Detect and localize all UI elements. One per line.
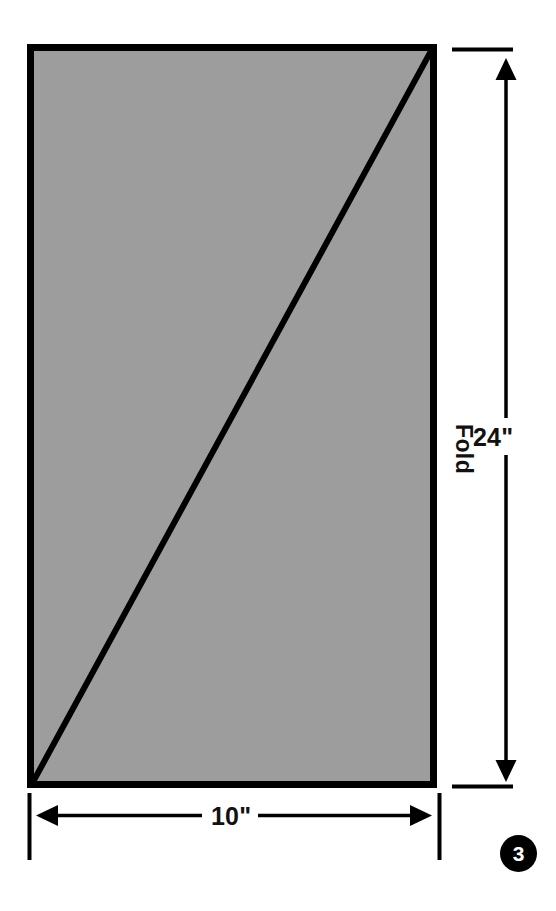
fold-edge-label: Fold xyxy=(425,437,503,461)
step-number-text: 3 xyxy=(513,843,525,864)
width-arrowhead-right-icon xyxy=(410,805,432,826)
width-arrowhead-left-icon xyxy=(36,805,58,826)
height-arrowhead-down-icon xyxy=(496,760,517,782)
step-number-badge: 3 xyxy=(500,835,537,872)
height-arrowhead-up-icon xyxy=(496,58,517,80)
diagram-canvas: 10" 24" Fold 3 xyxy=(0,0,556,911)
width-dimension-label: 10" xyxy=(205,802,257,831)
